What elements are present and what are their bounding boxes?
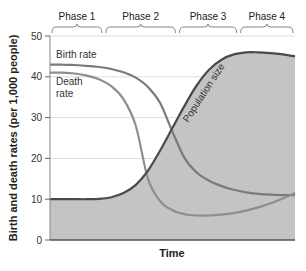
y-tick-label: 0 bbox=[36, 235, 42, 246]
phase-brace bbox=[52, 24, 102, 33]
demographic-transition-chart: 01020304050 Phase 1Phase 2Phase 3Phase 4… bbox=[0, 0, 306, 271]
y-tick-label: 40 bbox=[31, 71, 43, 82]
birth-rate-label: Birth rate bbox=[56, 49, 97, 60]
population-size-area bbox=[50, 52, 295, 240]
phase-brace bbox=[241, 24, 293, 33]
phase-label: Phase 1 bbox=[59, 11, 96, 22]
phase-brace bbox=[179, 24, 236, 33]
phase-brace bbox=[106, 24, 175, 33]
phase-label: Phase 3 bbox=[190, 11, 227, 22]
death-rate-label: Death bbox=[56, 76, 83, 87]
phase-label: Phase 4 bbox=[248, 11, 285, 22]
y-tick-label: 50 bbox=[31, 31, 43, 42]
phase-label: Phase 2 bbox=[122, 11, 159, 22]
y-axis-ticks: 01020304050 bbox=[31, 31, 50, 246]
y-tick-label: 10 bbox=[31, 194, 43, 205]
y-tick-label: 20 bbox=[31, 153, 43, 164]
death-rate-label-line2: rate bbox=[56, 88, 74, 99]
y-axis-title: Birth and death rates (per 1,000 people) bbox=[7, 34, 19, 241]
x-axis-title: Time bbox=[159, 247, 184, 259]
y-tick-label: 30 bbox=[31, 112, 43, 123]
phase-braces: Phase 1Phase 2Phase 3Phase 4 bbox=[52, 11, 293, 33]
